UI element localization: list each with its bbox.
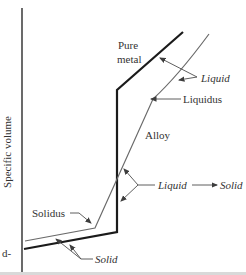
solidification-diagram: Specific volume d- Pure metal Liquid Liq… (0, 0, 246, 275)
pure-metal-label-line-2: metal (117, 53, 141, 65)
y-axis-label: Specific volume (1, 116, 13, 188)
phase-change-solid-label: Solid (220, 179, 243, 191)
alloy-label: Alloy (145, 129, 171, 141)
clipped-text-fragment: d- (2, 247, 12, 259)
pure-metal-label-line-1: Pure (118, 39, 138, 51)
liquid-label-arrow-to-pure-metal (160, 58, 197, 77)
liquidus-label: Liquidus (183, 93, 222, 105)
solidus-label: Solidus (32, 207, 65, 219)
diagram-canvas: Specific volume d- Pure metal Liquid Liq… (0, 0, 246, 275)
solid-region-label: Solid (95, 253, 118, 265)
phase-change-liquid-label: Liquid (157, 179, 187, 191)
liquid-region-label: Liquid (200, 72, 230, 84)
solid-fork-arrow-to-alloy (56, 239, 81, 259)
freezing-fork-arrow-to-pure-metal (121, 185, 138, 201)
freezing-fork-arrow-to-alloy (124, 169, 138, 185)
annotation-arrows (56, 58, 217, 259)
solidus-arrow (70, 213, 91, 223)
liquid-label-arrow-to-alloy (179, 77, 197, 80)
